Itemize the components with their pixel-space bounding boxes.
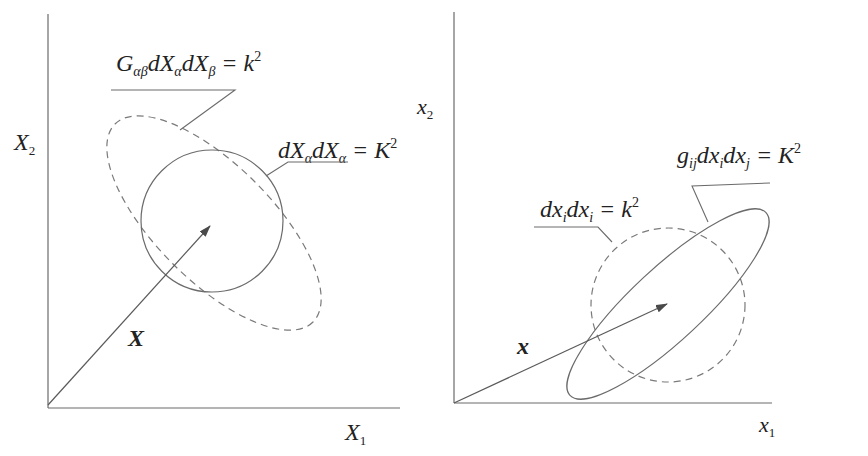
left-vector-arrow — [48, 226, 210, 405]
right-panel: x2 x1 x gijdxidxj = K2 dxidxi = k2 — [416, 12, 801, 440]
left-x-axis-label: X1 — [344, 419, 366, 448]
left-vector-label: X — [127, 325, 145, 351]
left-ellipse-equation: GαβdXαdXβ = k2 — [116, 49, 261, 79]
right-dashed-circle — [591, 228, 745, 382]
right-ellipse-equation: gijdxidxj = K2 — [677, 141, 801, 171]
metric-transformation-diagram: X2 X1 X GαβdXαdXβ = k2 dXαdXα = K2 x2 — [0, 0, 868, 456]
right-circle-equation: dxidxi = k2 — [540, 195, 639, 225]
right-vector-label: x — [516, 333, 529, 359]
right-circle-leader-line — [534, 227, 612, 242]
right-x-axis-label: x1 — [758, 412, 775, 440]
left-solid-circle — [141, 150, 283, 292]
left-dashed-ellipse — [74, 83, 354, 363]
left-y-axis-label: X2 — [13, 129, 35, 158]
left-panel: X2 X1 X GαβdXαdXβ = k2 dXαdXα = K2 — [13, 14, 400, 448]
right-ellipse-leader-line — [692, 183, 770, 222]
right-vector-arrow — [454, 304, 667, 403]
right-y-axis-label: x2 — [416, 94, 433, 122]
